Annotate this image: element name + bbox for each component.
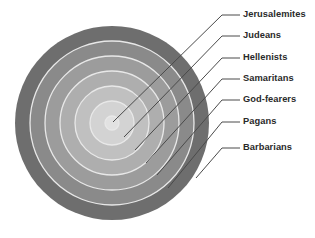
labels-group: JerusalemitesJudeansHellenistsSamaritans… — [243, 9, 306, 152]
label-samaritans: Samaritans — [243, 73, 294, 83]
label-jerusalemites: Jerusalemites — [243, 9, 306, 19]
label-god-fearers: God-fearers — [243, 94, 296, 104]
label-hellenists: Hellenists — [243, 52, 287, 62]
rings-group — [15, 26, 209, 220]
diagram-canvas: JerusalemitesJudeansHellenistsSamaritans… — [0, 0, 315, 238]
label-pagans: Pagans — [243, 116, 276, 126]
concentric-rings-diagram: JerusalemitesJudeansHellenistsSamaritans… — [0, 0, 315, 238]
label-barbarians: Barbarians — [243, 142, 292, 152]
label-judeans: Judeans — [243, 30, 281, 40]
